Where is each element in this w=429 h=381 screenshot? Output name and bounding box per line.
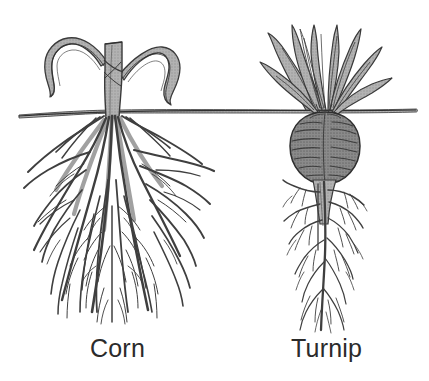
caption-corn: Corn: [90, 336, 145, 361]
corn-stalk: [104, 42, 123, 118]
turnip-bulb: [290, 112, 360, 184]
plant-illustration-svg: [0, 0, 429, 381]
caption-turnip: Turnip: [291, 336, 362, 361]
plant-root-diagram: Corn Turnip: [0, 0, 429, 381]
diagram-background: [0, 0, 429, 381]
